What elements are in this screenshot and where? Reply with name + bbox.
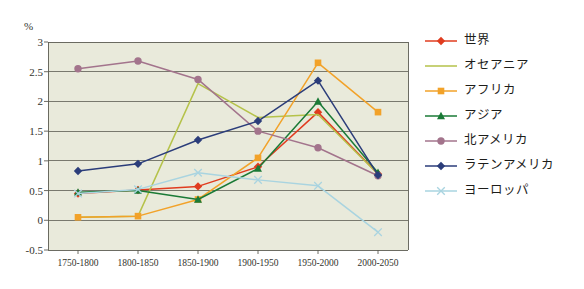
x-axis-tick-label: 1900-1950 [237,259,278,269]
y-axis-tick-label: 1 [38,155,44,166]
growth-rate-line-chart: % 32.521.510.50-0.5 1750-18001800-185018… [0,0,584,289]
legend-item-アジア[interactable]: アジア [424,103,576,128]
series-ラテンアメリカ [74,76,382,179]
y-axis-tick-label: 3 [38,37,44,48]
y-axis-tick-label: 0.5 [29,185,43,196]
x-axis-tick-label: 1850-1900 [177,259,218,269]
data-point-marker [134,57,141,64]
data-point-marker [74,65,81,72]
data-point-marker [194,182,202,190]
x-axis-tick-label: 1950-2000 [297,259,338,269]
plot-canvas [48,42,408,250]
data-point-marker [75,214,82,221]
data-point-marker [437,161,445,169]
data-point-marker [375,109,382,116]
chart-legend: 世界オセアニアアフリカアジア北アメリカラテンアメリカヨーロッパ [424,28,576,203]
data-point-marker [374,171,382,179]
legend-item-アフリカ[interactable]: アフリカ [424,78,576,103]
series-line [78,63,378,218]
y-axis-tick-label: 2.5 [29,66,43,77]
x-axis-tick-label: 1800-1850 [117,259,158,269]
data-point-marker [254,117,262,125]
legend-item-label: 世界 [464,34,490,47]
legend-item-ラテンアメリカ[interactable]: ラテンアメリカ [424,153,576,178]
x-axis-tick-label: 2000-2050 [357,259,398,269]
legend-marker-icon [424,33,458,49]
legend-item-label: 北アメリカ [464,134,528,147]
series-アフリカ [75,60,382,221]
data-point-marker [135,213,142,220]
series-line [78,173,378,232]
series-line [78,112,378,193]
legend-marker-icon [424,183,458,199]
legend-item-label: オセアニア [464,59,529,72]
series-アジア [74,97,382,202]
x-axis-tick-label: 1750-1800 [57,259,98,269]
data-point-marker [437,36,445,44]
series-line [78,101,378,199]
y-axis-tick-label: 1.5 [29,126,43,137]
data-point-marker [314,97,322,104]
data-point-marker [255,155,262,162]
data-point-marker [314,144,321,151]
data-point-marker [194,136,202,144]
legend-marker-icon [424,158,458,174]
data-point-marker [194,76,201,83]
legend-marker-icon [424,83,458,99]
plot-area: 32.521.510.50-0.5 1750-18001800-18501850… [48,42,408,250]
data-point-marker [315,60,322,67]
legend-marker-icon [424,108,458,124]
y-axis-tick-label: 2 [38,96,44,107]
data-point-marker [437,137,444,144]
legend-item-label: ヨーロッパ [464,184,529,197]
legend-item-世界[interactable]: 世界 [424,28,576,53]
legend-item-label: ラテンアメリカ [464,159,554,172]
data-point-marker [74,167,82,175]
data-point-marker [374,228,382,236]
data-point-marker [314,76,322,84]
legend-marker-icon [424,58,458,74]
legend-item-ヨーロッパ[interactable]: ヨーロッパ [424,178,576,203]
legend-item-label: アジア [464,109,503,122]
legend-item-北アメリカ[interactable]: 北アメリカ [424,128,576,153]
y-axis-tick-label: -0.5 [26,245,43,256]
legend-marker-icon [424,133,458,149]
y-axis-tick-label: 0 [38,215,44,226]
legend-item-label: アフリカ [464,84,516,97]
legend-item-オセアニア[interactable]: オセアニア [424,53,576,78]
data-point-marker [254,127,261,134]
y-axis-unit-label: % [24,20,33,32]
data-point-marker [438,87,445,94]
